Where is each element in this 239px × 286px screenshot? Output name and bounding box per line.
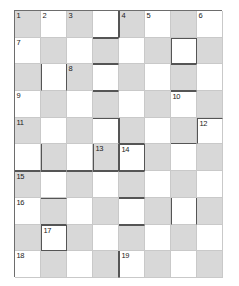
grid-cell-r2-c1[interactable]	[41, 64, 67, 91]
grid-cell-r0-c3[interactable]	[93, 11, 119, 38]
grid-cell-r7-c3[interactable]	[93, 198, 119, 225]
grid-cell-r6-c3[interactable]	[93, 171, 119, 198]
grid-cell-r8-c0[interactable]	[15, 225, 41, 252]
grid-cell-r6-c0[interactable]: 15	[15, 171, 41, 198]
crossword-puzzle: 12345678910111213141516171819	[0, 0, 239, 286]
grid-cell-r7-c4[interactable]	[119, 198, 145, 225]
grid-cell-r1-c6[interactable]	[171, 38, 197, 65]
clue-number-10: 10	[173, 92, 181, 101]
grid-cell-r8-c1[interactable]: 17	[41, 225, 67, 252]
grid-cell-r1-c3[interactable]	[93, 38, 119, 65]
grid-cell-r6-c2[interactable]	[67, 171, 93, 198]
grid-cell-r3-c5[interactable]	[145, 91, 171, 118]
grid-cell-r2-c6[interactable]	[171, 64, 197, 91]
grid-cell-r7-c7[interactable]	[197, 198, 223, 225]
grid-cell-r3-c7[interactable]	[197, 91, 223, 118]
grid-cell-r4-c5[interactable]	[145, 118, 171, 145]
clue-number-6: 6	[199, 11, 203, 20]
grid-cell-r4-c4[interactable]	[119, 118, 145, 145]
clue-number-4: 4	[122, 11, 126, 20]
grid-cell-r7-c0[interactable]: 16	[15, 198, 41, 225]
grid-cell-r4-c6[interactable]	[171, 118, 197, 145]
grid-cell-r8-c7[interactable]	[197, 225, 223, 252]
grid-cell-r0-c0[interactable]: 1	[15, 11, 41, 38]
grid-cell-r3-c4[interactable]	[119, 91, 145, 118]
grid-cell-r8-c5[interactable]	[145, 225, 171, 252]
grid-cell-r1-c0[interactable]: 7	[15, 38, 41, 65]
clue-number-18: 18	[17, 251, 25, 260]
clue-number-8: 8	[69, 64, 73, 73]
grid-cell-r0-c2[interactable]: 3	[67, 11, 93, 38]
grid-cell-r8-c2[interactable]	[67, 225, 93, 252]
grid-cell-r9-c7[interactable]	[197, 251, 223, 278]
grid-cell-r5-c0[interactable]	[15, 144, 41, 171]
grid-cell-r1-c2[interactable]	[67, 38, 93, 65]
grid-cell-r9-c0[interactable]: 18	[15, 251, 41, 278]
grid-cell-r7-c2[interactable]	[67, 198, 93, 225]
clue-number-14: 14	[122, 145, 130, 154]
clue-number-3: 3	[69, 11, 73, 20]
grid-cell-r3-c2[interactable]	[67, 91, 93, 118]
grid-cell-r5-c6[interactable]	[171, 144, 197, 171]
grid-cell-r2-c4[interactable]	[119, 64, 145, 91]
clue-number-9: 9	[17, 91, 21, 100]
clue-number-5: 5	[147, 11, 151, 20]
grid-cell-r7-c1[interactable]	[41, 198, 67, 225]
grid-cell-r5-c4[interactable]: 14	[119, 144, 145, 171]
grid-cell-r4-c3[interactable]	[93, 118, 119, 145]
grid-cell-r5-c7[interactable]	[197, 144, 223, 171]
grid-cell-r2-c3[interactable]	[93, 64, 119, 91]
clue-number-7: 7	[17, 38, 21, 47]
crossword-grid[interactable]: 12345678910111213141516171819	[14, 10, 222, 277]
grid-cell-r2-c2[interactable]: 8	[67, 64, 93, 91]
grid-cell-r9-c2[interactable]	[67, 251, 93, 278]
grid-cell-r5-c3[interactable]: 13	[93, 144, 119, 171]
grid-cell-r8-c3[interactable]	[93, 225, 119, 252]
grid-cell-r1-c7[interactable]	[197, 38, 223, 65]
clue-number-1: 1	[17, 11, 21, 20]
grid-cell-r4-c0[interactable]: 11	[15, 118, 41, 145]
grid-cell-r1-c5[interactable]	[145, 38, 171, 65]
grid-cell-r4-c7[interactable]: 12	[197, 118, 223, 145]
grid-cell-r6-c1[interactable]	[41, 171, 67, 198]
grid-cell-r3-c6[interactable]: 10	[171, 91, 197, 118]
grid-cell-r6-c7[interactable]	[197, 171, 223, 198]
grid-cell-r0-c5[interactable]: 5	[145, 11, 171, 38]
grid-cell-r9-c3[interactable]	[93, 251, 119, 278]
grid-cell-r5-c2[interactable]	[67, 144, 93, 171]
grid-cell-r4-c1[interactable]	[41, 118, 67, 145]
grid-cell-r1-c1[interactable]	[41, 38, 67, 65]
clue-number-19: 19	[122, 251, 130, 260]
grid-cell-r2-c0[interactable]	[15, 64, 41, 91]
grid-cell-r0-c4[interactable]: 4	[119, 11, 145, 38]
grid-cell-r0-c7[interactable]: 6	[197, 11, 223, 38]
clue-number-17: 17	[44, 226, 52, 235]
grid-cell-r0-c6[interactable]	[171, 11, 197, 38]
grid-cell-r5-c1[interactable]	[41, 144, 67, 171]
grid-cell-r0-c1[interactable]: 2	[41, 11, 67, 38]
grid-cell-r6-c4[interactable]	[119, 171, 145, 198]
grid-cell-r9-c4[interactable]: 19	[119, 251, 145, 278]
clue-number-2: 2	[43, 11, 47, 20]
grid-cell-r2-c5[interactable]	[145, 64, 171, 91]
grid-cell-r8-c4[interactable]	[119, 225, 145, 252]
clue-number-13: 13	[96, 144, 104, 153]
grid-cell-r1-c4[interactable]	[119, 38, 145, 65]
grid-cell-r9-c1[interactable]	[41, 251, 67, 278]
grid-cell-r6-c5[interactable]	[145, 171, 171, 198]
grid-cell-r2-c7[interactable]	[197, 64, 223, 91]
grid-cell-r5-c5[interactable]	[145, 144, 171, 171]
grid-cell-r6-c6[interactable]	[171, 171, 197, 198]
grid-cell-r7-c6[interactable]	[171, 198, 197, 225]
grid-cell-r3-c1[interactable]	[41, 91, 67, 118]
clue-number-15: 15	[17, 172, 25, 181]
grid-cell-r3-c3[interactable]	[93, 91, 119, 118]
grid-cell-r7-c5[interactable]	[145, 198, 171, 225]
grid-cell-r8-c6[interactable]	[171, 225, 197, 252]
clue-number-16: 16	[17, 198, 25, 207]
grid-cell-r9-c5[interactable]	[145, 251, 171, 278]
grid-cell-r9-c6[interactable]	[171, 251, 197, 278]
grid-cell-r4-c2[interactable]	[67, 118, 93, 145]
clue-number-12: 12	[200, 119, 208, 128]
grid-cell-r3-c0[interactable]: 9	[15, 91, 41, 118]
